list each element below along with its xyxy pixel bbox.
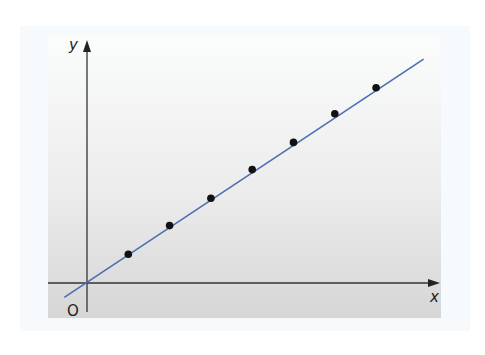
data-point <box>372 84 380 92</box>
data-point <box>248 166 256 174</box>
y-axis-arrow-icon <box>83 40 91 52</box>
x-axis-arrow-icon <box>428 279 440 287</box>
x-axis-label: x <box>429 288 439 306</box>
data-point <box>166 222 174 230</box>
data-point <box>331 110 339 118</box>
scatter-plot: y x O <box>0 0 485 355</box>
best-fit-line <box>64 59 423 297</box>
y-axis-label: y <box>68 36 79 54</box>
data-point <box>125 251 133 259</box>
origin-label: O <box>67 302 79 320</box>
data-point <box>207 195 215 203</box>
data-point <box>290 139 298 147</box>
